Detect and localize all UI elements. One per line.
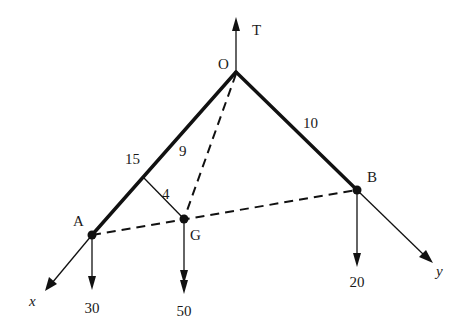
length-4-label: 4 [162,186,170,202]
member-OB [236,72,357,190]
force-20-label: 20 [350,274,365,290]
length-10-label: 10 [303,115,318,131]
point-G-dot [180,215,189,224]
member-OA [92,72,236,235]
point-O-label: O [218,56,229,72]
line-OG-dashed [184,74,236,219]
point-B-label: B [367,169,377,185]
x-axis-arrow [45,235,92,291]
force-30-arrow [88,235,96,290]
point-A-label: A [73,213,84,229]
force-50-arrow [180,219,188,294]
line-AB-dashed [92,190,357,235]
force-50-label: 50 [177,303,192,319]
point-G-label: G [190,227,201,243]
force-20-arrow [353,190,361,267]
point-A-dot [88,231,97,240]
y-axis-arrow [357,190,433,263]
x-axis-label: x [28,293,36,309]
force-T-label: T [252,22,261,38]
force-30-label: 30 [85,300,100,316]
statics-diagram: T x y 30 50 20 O A G B 15 9 4 1 [0,0,469,331]
length-15-label: 15 [125,151,140,167]
length-9-label: 9 [179,143,187,159]
point-B-dot [353,186,362,195]
force-T-arrow [232,17,240,72]
y-axis-label: y [434,263,443,279]
